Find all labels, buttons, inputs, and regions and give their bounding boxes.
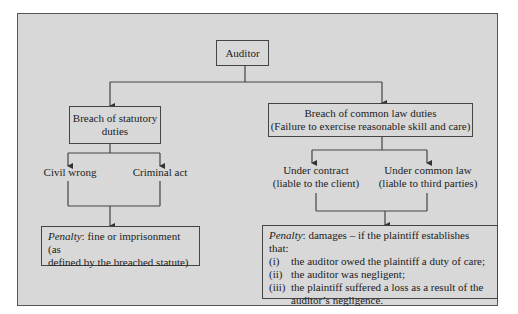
common-law-penalty-box: Penalty: damages – if the plaintiff esta… xyxy=(262,225,498,299)
penalty-label: Penalty xyxy=(269,229,303,241)
common-law-duties-node: Breach of common law duties (Failure to … xyxy=(268,103,473,137)
under-common-law-line2: (liable to third parties) xyxy=(378,177,478,190)
condition-item: (iii) the plaintiff suffered a loss as a… xyxy=(269,281,491,294)
condition-item: (i) the auditor owed the plaintiff a dut… xyxy=(269,255,491,268)
statutory-title-line1: Breach of statutory xyxy=(70,112,160,125)
condition-item-continuation: auditor’s negligence. xyxy=(269,294,491,307)
common-law-title-line1: Breach of common law duties xyxy=(269,107,472,120)
common-law-title-line2: (Failure to exercise reasonable skill an… xyxy=(269,120,472,133)
condition-item: (ii) the auditor was negligent; xyxy=(269,268,491,281)
penalty-label: Penalty xyxy=(48,230,82,242)
auditor-label: Auditor xyxy=(217,47,268,60)
criminal-act-label: Criminal act xyxy=(130,166,190,179)
under-contract-label: Under contract (liable to the client) xyxy=(266,164,366,190)
under-contract-line1: Under contract xyxy=(266,164,366,177)
under-contract-line2: (liable to the client) xyxy=(266,177,366,190)
under-common-law-label: Under common law (liable to third partie… xyxy=(378,164,478,190)
statutory-penalty-line2: defined by the breached statute) xyxy=(48,256,193,269)
under-common-law-line1: Under common law xyxy=(378,164,478,177)
auditor-node: Auditor xyxy=(216,40,269,66)
statutory-title-line2: duties xyxy=(70,125,160,138)
statutory-penalty-box: Penalty: fine or imprisonment (as define… xyxy=(41,226,200,266)
statutory-duties-node: Breach of statutory duties xyxy=(69,106,161,144)
civil-wrong-label: Civil wrong xyxy=(40,166,100,179)
